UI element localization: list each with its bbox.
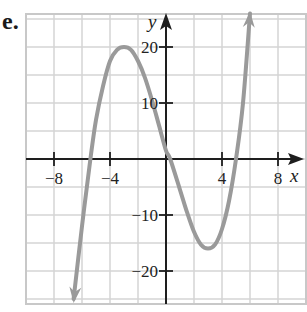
axes (26, 13, 304, 304)
y-tick-label: 20 (141, 38, 158, 57)
y-axis-label: y (146, 11, 157, 32)
x-tick-label: 4 (218, 169, 227, 188)
x-tick-label: −4 (101, 169, 120, 188)
x-tick-label: 8 (274, 169, 283, 188)
curve-path (74, 13, 250, 299)
y-tick-label: −20 (131, 262, 158, 281)
x-tick-label: −8 (45, 169, 63, 188)
y-tick-label: 10 (141, 94, 158, 113)
tick-labels: −8−4482010−10−20xy (45, 11, 299, 281)
cubic-graph: −8−4482010−10−20xy (0, 0, 307, 312)
x-axis-label: x (289, 165, 299, 186)
y-tick-label: −10 (131, 206, 158, 225)
function-curve (69, 11, 254, 303)
